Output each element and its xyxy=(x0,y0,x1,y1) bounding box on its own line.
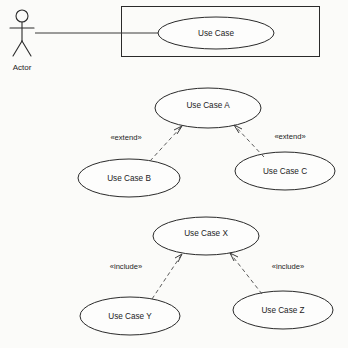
actor-label: Actor xyxy=(13,63,32,72)
stereotype-label-include-y: «include» xyxy=(110,262,143,271)
open-arrowhead-icon xyxy=(175,254,182,262)
dependency-include-y-to-x[interactable] xyxy=(152,254,182,299)
use-case-node-b[interactable]: Use Case B xyxy=(78,159,180,197)
use-case-label: Use Case xyxy=(198,29,234,38)
use-case-label: Use Case Z xyxy=(261,306,304,315)
dependency-line xyxy=(234,125,264,157)
stereotype-label-include-z: «include» xyxy=(272,262,305,271)
use-case-node-y[interactable]: Use Case Y xyxy=(80,297,180,335)
actor-figure[interactable] xyxy=(10,10,34,56)
use-case-label: Use Case Y xyxy=(108,312,152,321)
use-case-node-a[interactable]: Use Case A xyxy=(155,88,261,128)
use-case-node-z[interactable]: Use Case Z xyxy=(233,291,333,329)
diagram-surface: Actor Use Case Use Case A Use Case B Use… xyxy=(0,0,348,348)
use-case-diagram-canvas: Actor Use Case Use Case A Use Case B Use… xyxy=(0,0,348,348)
use-case-node-x[interactable]: Use Case X xyxy=(153,217,259,255)
dependency-line xyxy=(230,253,262,294)
dependency-line xyxy=(150,126,182,161)
dependency-line xyxy=(152,254,182,299)
actor-left-leg-icon xyxy=(13,41,22,56)
use-case-label: Use Case C xyxy=(263,167,307,176)
actor-head-icon xyxy=(16,10,28,22)
use-case-label: Use Case X xyxy=(184,229,228,238)
dependency-extend-b-to-a[interactable] xyxy=(150,126,182,161)
dependency-extend-c-to-a[interactable] xyxy=(234,125,264,157)
stereotype-label-extend-b: «extend» xyxy=(110,133,141,142)
use-case-label: Use Case A xyxy=(186,101,230,110)
actor-right-leg-icon xyxy=(22,41,31,56)
use-case-label: Use Case B xyxy=(107,174,151,183)
stereotype-label-extend-c: «extend» xyxy=(274,132,305,141)
use-case-node-main[interactable]: Use Case xyxy=(158,17,274,49)
dependency-include-z-to-x[interactable] xyxy=(230,253,262,294)
use-case-node-c[interactable]: Use Case C xyxy=(235,152,335,190)
